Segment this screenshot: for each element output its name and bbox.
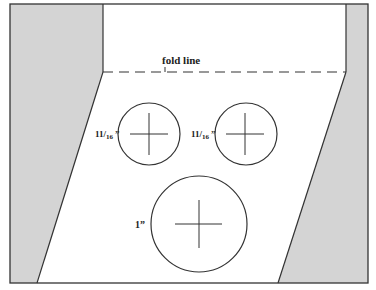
large-size-label: 1”: [135, 219, 145, 230]
small-right-size-label: 11/16”: [191, 129, 216, 141]
small-circle-left: [118, 103, 180, 165]
small-circle-right: [215, 103, 277, 165]
fold-line-label: fold line: [162, 54, 200, 66]
large-circle: [151, 176, 247, 272]
pattern-diagram: fold line 11/16” 11/16” 1”: [0, 0, 376, 290]
small-left-size-label: 11/16”: [95, 129, 120, 141]
left-gray-region: [10, 4, 103, 283]
